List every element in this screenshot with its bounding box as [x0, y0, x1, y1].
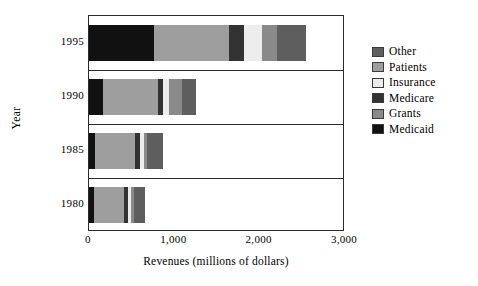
y-tick-1990: 1990 — [14, 89, 84, 101]
legend-item-medicaid[interactable]: Medicaid — [372, 122, 472, 138]
legend-item-medicare[interactable]: Medicare — [372, 91, 472, 107]
legend-swatch-icon — [372, 109, 384, 119]
bar-segment — [134, 187, 145, 223]
legend-label: Insurance — [389, 77, 436, 89]
bar-segment — [229, 25, 244, 61]
chart-legend: OtherPatientsInsuranceMedicareGrantsMedi… — [372, 44, 472, 137]
bar-segment — [262, 25, 277, 61]
bar-segment — [244, 25, 262, 61]
legend-swatch-icon — [372, 62, 384, 72]
stacked-bar — [89, 79, 196, 115]
legend-swatch-icon — [372, 124, 384, 134]
x-tick-2000: 2,000 — [246, 233, 272, 245]
plot-area — [88, 15, 344, 231]
x-axis-tick-labels: 01,0002,0003,000 — [88, 233, 344, 251]
x-tick-1000: 1,000 — [160, 233, 186, 245]
chart-figure: Year 1995199019851980 01,0002,0003,000 R… — [0, 0, 478, 286]
legend-item-grants[interactable]: Grants — [372, 106, 472, 122]
bar-segment — [103, 79, 158, 115]
bar-segment — [154, 25, 229, 61]
y-tick-1995: 1995 — [14, 35, 84, 47]
stacked-bar — [89, 187, 145, 223]
x-tick-0: 0 — [85, 233, 91, 245]
bar-row — [89, 178, 343, 232]
bar-segment — [95, 133, 134, 169]
legend-item-patients[interactable]: Patients — [372, 60, 472, 76]
bar-segment — [147, 133, 163, 169]
x-tick-3000: 3,000 — [331, 233, 357, 245]
legend-label: Medicaid — [389, 124, 434, 136]
legend-label: Other — [389, 46, 416, 58]
x-axis-title: Revenues (millions of dollars) — [88, 255, 344, 267]
legend-swatch-icon — [372, 78, 384, 88]
bar-segment — [89, 25, 154, 61]
bar-segment — [182, 79, 197, 115]
bar-segment — [169, 79, 181, 115]
stacked-bar — [89, 133, 163, 169]
legend-item-other[interactable]: Other — [372, 44, 472, 60]
legend-item-insurance[interactable]: Insurance — [372, 75, 472, 91]
y-tick-1980: 1980 — [14, 197, 84, 209]
legend-label: Medicare — [389, 93, 434, 105]
y-axis-tick-labels: 1995199019851980 — [10, 15, 84, 231]
legend-swatch-icon — [372, 47, 384, 57]
bar-segment — [277, 25, 306, 61]
bar-row — [89, 124, 343, 178]
bar-segment — [94, 187, 125, 223]
legend-swatch-icon — [372, 93, 384, 103]
bar-row — [89, 16, 343, 70]
bar-segment — [89, 79, 103, 115]
y-tick-1985: 1985 — [14, 143, 84, 155]
bar-row — [89, 70, 343, 124]
legend-label: Grants — [389, 108, 421, 120]
legend-label: Patients — [389, 62, 427, 74]
stacked-bar — [89, 25, 306, 61]
